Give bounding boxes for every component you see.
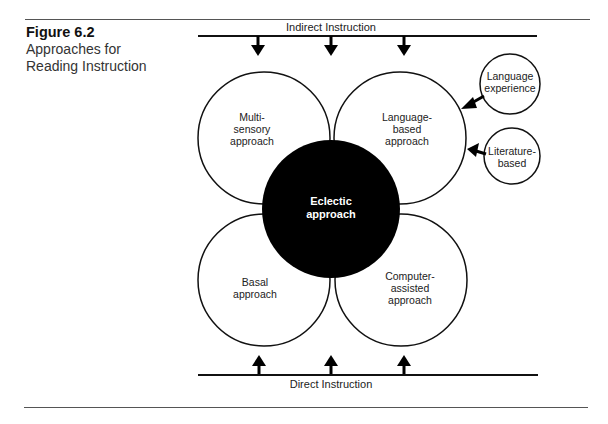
svg-text:approach: approach <box>230 135 274 147</box>
svg-text:Basal: Basal <box>242 276 268 288</box>
arrow-left-icon <box>467 143 486 157</box>
literature-based-line-2: based <box>498 157 527 169</box>
language-experience-line-1: Language <box>487 70 534 82</box>
indirect-instruction-label: Indirect Instruction <box>286 21 376 33</box>
svg-text:approach: approach <box>388 294 432 306</box>
svg-text:assisted: assisted <box>391 282 430 294</box>
direct-instruction-label: Direct Instruction <box>290 378 373 390</box>
svg-text:Computer-: Computer- <box>385 270 435 282</box>
arrow-up-icon <box>252 355 266 375</box>
svg-text:approach: approach <box>233 288 277 300</box>
arrow-up-icon <box>324 355 338 375</box>
literature-based-line-1: Literature- <box>488 145 536 157</box>
arrow-down-icon <box>397 36 411 56</box>
language-experience-line-2: experience <box>484 82 536 94</box>
arrow-up-icon <box>397 355 411 375</box>
svg-text:Multi-: Multi- <box>239 111 265 123</box>
svg-text:Language-: Language- <box>382 111 433 123</box>
arrow-down-icon <box>251 36 265 56</box>
arrow-down-icon <box>324 36 338 56</box>
arrow-diagonal-icon <box>461 96 484 109</box>
eclectic-line-1: Eclectic <box>310 195 352 207</box>
approaches-diagram: Indirect Instruction Eclectic approach M… <box>0 0 608 424</box>
svg-text:approach: approach <box>385 135 429 147</box>
eclectic-line-2: approach <box>306 208 356 220</box>
svg-text:sensory: sensory <box>234 123 272 135</box>
computer-assisted-label: Computer- assisted approach <box>385 270 435 306</box>
indirect-arrows <box>251 36 411 56</box>
svg-text:based: based <box>393 123 422 135</box>
direct-arrows <box>252 355 411 375</box>
